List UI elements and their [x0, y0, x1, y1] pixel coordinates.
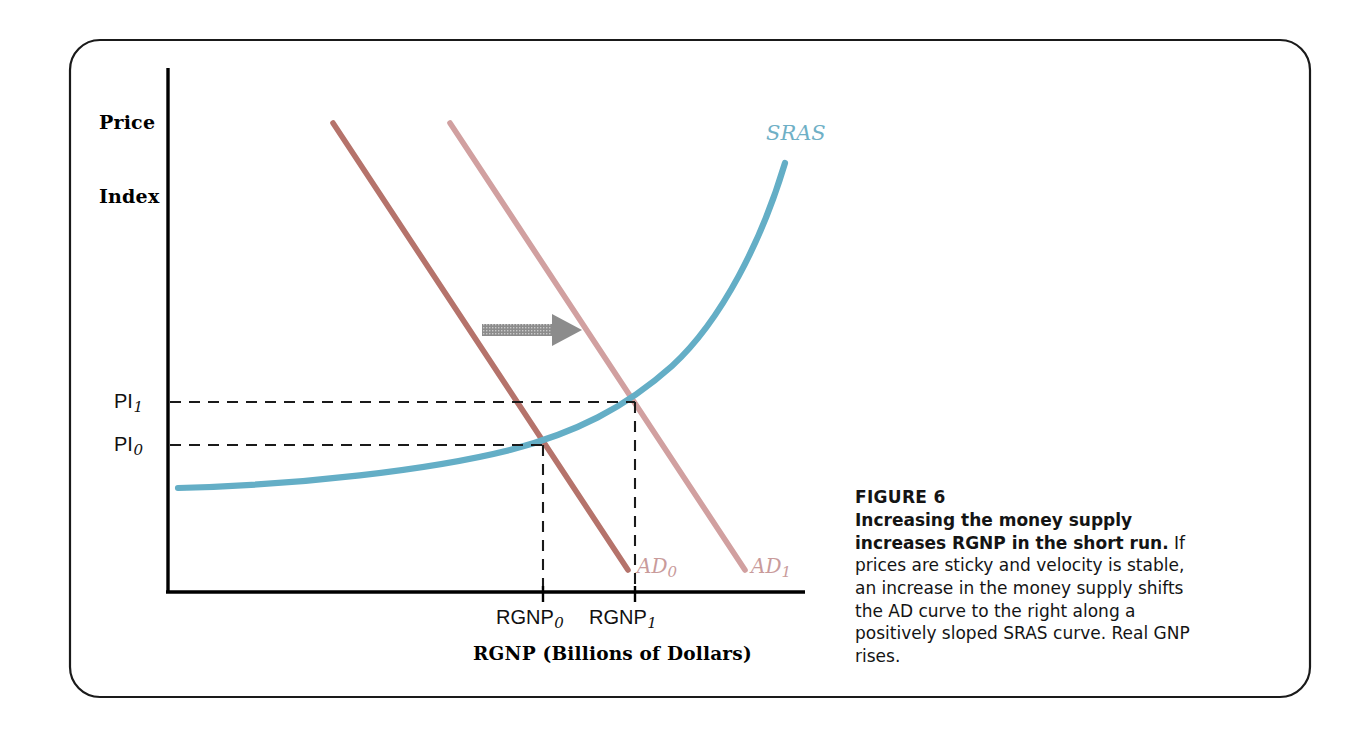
- x-tick-rgnp0-base: RGNP: [496, 606, 554, 628]
- ad0-curve-label: AD0: [637, 556, 677, 580]
- sras-label-text: SRAS: [766, 121, 826, 145]
- y-tick-pi0-base: PI: [114, 433, 133, 455]
- ad1-label-subscript: 1: [781, 563, 791, 581]
- y-axis-title-line2: Index: [99, 184, 159, 209]
- ad0-label-subscript: 0: [667, 563, 677, 581]
- y-axis-title: Price Index: [99, 61, 159, 259]
- y-tick-pi0-subscript: 0: [133, 441, 143, 459]
- y-tick-label-pi1: PI1: [114, 391, 143, 415]
- sras-curve-label: SRAS: [766, 123, 826, 144]
- caption-lead-text: Increasing the money supply increases RG…: [855, 510, 1169, 553]
- x-tick-label-rgnp0: RGNP0: [496, 607, 564, 631]
- figure-caption: FIGURE 6 Increasing the money supply inc…: [855, 487, 1205, 668]
- x-tick-label-rgnp1: RGNP1: [589, 607, 657, 631]
- x-tick-rgnp1-subscript: 1: [647, 614, 657, 632]
- rightward-shift-arrow: [482, 314, 582, 346]
- ad1-curve: [450, 123, 745, 570]
- y-tick-label-pi0: PI0: [114, 434, 143, 458]
- ad0-curve: [333, 123, 628, 570]
- y-tick-pi1-base: PI: [114, 390, 133, 412]
- x-tick-rgnp1-base: RGNP: [589, 606, 647, 628]
- figure-page: Price Index RGNP (Billions of Dollars) P…: [0, 0, 1370, 729]
- caption-body: Increasing the money supply increases RG…: [855, 509, 1205, 667]
- caption-title: FIGURE 6: [855, 487, 1205, 508]
- y-axis-title-line1: Price: [99, 110, 159, 135]
- y-tick-pi1-subscript: 1: [133, 398, 143, 416]
- ad0-label-text: AD: [637, 554, 667, 578]
- ad1-curve-label: AD1: [751, 556, 791, 580]
- x-axis-title: RGNP (Billions of Dollars): [473, 645, 752, 664]
- ad1-label-text: AD: [751, 554, 781, 578]
- sras-curve: [178, 163, 785, 488]
- x-tick-rgnp0-subscript: 0: [554, 614, 564, 632]
